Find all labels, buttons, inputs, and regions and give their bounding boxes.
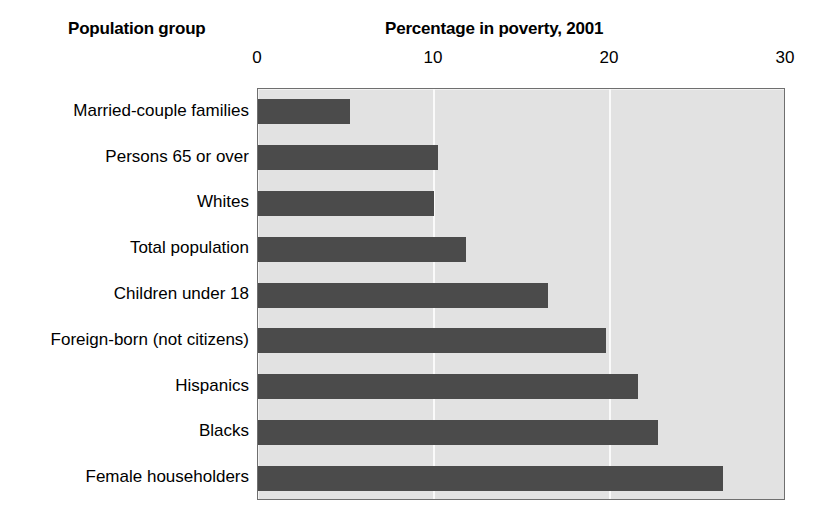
bar bbox=[258, 328, 606, 353]
plot-area bbox=[257, 88, 785, 500]
poverty-bar-chart-figure: Population group Percentage in poverty, … bbox=[0, 0, 814, 531]
category-label: Foreign-born (not citizens) bbox=[51, 330, 249, 350]
x-tick-label-10: 10 bbox=[424, 48, 443, 68]
category-label: Children under 18 bbox=[114, 284, 249, 304]
bar bbox=[258, 283, 548, 308]
bar bbox=[258, 374, 638, 399]
bar bbox=[258, 466, 723, 491]
x-tick-label-30: 30 bbox=[776, 48, 795, 68]
bar bbox=[258, 191, 434, 216]
category-label: Female householders bbox=[86, 467, 249, 487]
category-label: Whites bbox=[197, 192, 249, 212]
bar-series bbox=[258, 89, 784, 499]
category-label: Persons 65 or over bbox=[105, 147, 249, 167]
bar bbox=[258, 99, 350, 124]
category-label: Blacks bbox=[199, 421, 249, 441]
category-label: Total population bbox=[130, 238, 249, 258]
population-group-header: Population group bbox=[68, 19, 206, 39]
x-axis-tick-labels: 0102030 bbox=[0, 48, 814, 72]
x-tick-label-0: 0 bbox=[252, 48, 261, 68]
bar bbox=[258, 420, 658, 445]
chart-title: Percentage in poverty, 2001 bbox=[385, 19, 603, 39]
bar bbox=[258, 237, 466, 262]
x-tick-label-20: 20 bbox=[600, 48, 619, 68]
category-label: Hispanics bbox=[175, 376, 249, 396]
category-label: Married-couple families bbox=[73, 101, 249, 121]
category-labels: Married-couple familiesPersons 65 or ove… bbox=[0, 88, 249, 500]
bar bbox=[258, 145, 438, 170]
